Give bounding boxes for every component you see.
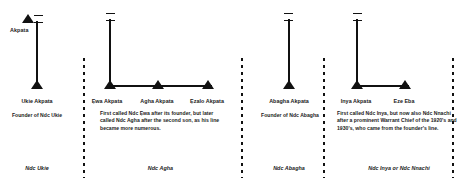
- lineage-label: Ndc Inya or Ndc Nnachi: [336, 165, 462, 171]
- triangle-icon: [22, 14, 34, 23]
- person-name: Ukie Akpata: [0, 98, 74, 104]
- lineage-label: Ndc Agha: [95, 165, 226, 171]
- panel-divider: [452, 58, 454, 178]
- marriage-tie-icon: [106, 13, 115, 21]
- person-name: Ẹwa Akpata: [84, 98, 130, 104]
- lineage-label: Ndc Abagha: [252, 165, 326, 171]
- panel-divider: [83, 58, 85, 178]
- panel-ndc-agha: Ẹwa Akpata Agha Akpata Ẹzalo Akpata Firs…: [95, 0, 240, 189]
- triangle-icon: [31, 80, 43, 89]
- descent-line: [288, 19, 290, 86]
- genealogy-chart: Akpata Ukie Akpata Founder of Ndc Ukie N…: [0, 0, 471, 189]
- panel-ndc-inya: Inya Akpata Eze Eba First called Ndc Iny…: [336, 0, 466, 189]
- descent-line: [36, 21, 38, 88]
- panel-divider: [241, 58, 243, 178]
- triangle-icon: [152, 80, 164, 89]
- panel-description: Founder of Ndc Ukie: [0, 112, 74, 119]
- panel-ndc-ukie: Akpata Ukie Akpata Founder of Ndc Ukie N…: [0, 0, 108, 189]
- triangle-icon: [283, 80, 295, 89]
- panel-description: First called Ndc Ẹwa after its founder, …: [100, 110, 228, 132]
- panel-description: Founder of Ndc Abagha: [250, 112, 330, 119]
- person-name: Ẹzalo Akpata: [184, 98, 230, 104]
- descent-line: [109, 19, 111, 86]
- triangle-icon: [399, 80, 411, 89]
- triangle-icon: [351, 80, 363, 89]
- panel-description: First called Ndc Inya, but now also Ndc …: [337, 110, 463, 132]
- lineage-label: Ndc Ukie: [0, 165, 74, 171]
- triangle-icon: [202, 80, 214, 89]
- triangle-icon: [104, 80, 116, 89]
- panel-divider: [323, 58, 325, 178]
- person-name: Abagha Akpata: [252, 98, 326, 104]
- marriage-tie-icon: [353, 13, 362, 21]
- person-name: Eze Eba: [381, 98, 427, 104]
- person-name: Agha Akpata: [134, 98, 180, 104]
- apex-label: Akpata: [10, 27, 29, 33]
- person-name: Inya Akpata: [333, 98, 379, 104]
- descent-line: [356, 19, 358, 86]
